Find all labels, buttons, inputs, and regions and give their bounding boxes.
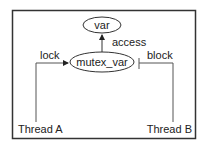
access-label: access (112, 36, 147, 48)
lock-label: lock (40, 49, 60, 61)
thread-a-label: Thread A (18, 123, 63, 135)
var-node-label: var (94, 19, 110, 31)
block-label: block (147, 49, 173, 61)
thread-b-label: Thread B (147, 123, 192, 135)
mutex-var-node-label: mutex_var (76, 56, 128, 68)
diagram-canvas: var access mutex_var lock block Thread A… (0, 0, 210, 148)
